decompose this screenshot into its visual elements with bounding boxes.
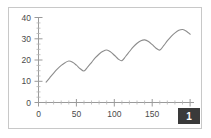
y-tick-label-0: 0 bbox=[26, 98, 31, 108]
y-tick-label-40: 40 bbox=[22, 13, 32, 23]
x-tick-label-50: 50 bbox=[72, 109, 82, 119]
x-tick-label-0: 0 bbox=[36, 109, 41, 119]
line-chart-plot: 0 10 20 30 40 bbox=[9, 8, 201, 128]
y-tick-label-20: 20 bbox=[22, 55, 32, 65]
y-tick-label-30: 30 bbox=[22, 34, 32, 44]
x-tick-label-150: 150 bbox=[145, 109, 159, 119]
page-number-badge[interactable]: 1 bbox=[178, 108, 200, 124]
x-tick-label-100: 100 bbox=[107, 109, 121, 119]
chart-figure-frame: 0 10 20 30 40 bbox=[8, 7, 202, 129]
y-tick-label-10: 10 bbox=[22, 76, 32, 86]
data-series-line bbox=[46, 29, 190, 82]
page-number-badge-label: 1 bbox=[186, 111, 192, 122]
